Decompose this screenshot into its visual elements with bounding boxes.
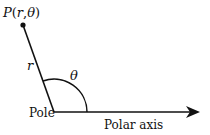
angle-label: θ [70,68,78,83]
diagram-svg: P(r,θ) r θ Pole Polar axis [0,0,210,135]
polar-coordinates-diagram: P(r,θ) r θ Pole Polar axis [0,0,210,135]
point-p-dot [20,22,25,27]
pole-label: Pole [29,106,55,120]
radius-label: r [27,58,34,73]
polar-axis-label: Polar axis [104,118,163,132]
point-label: P(r,θ) [2,5,40,20]
